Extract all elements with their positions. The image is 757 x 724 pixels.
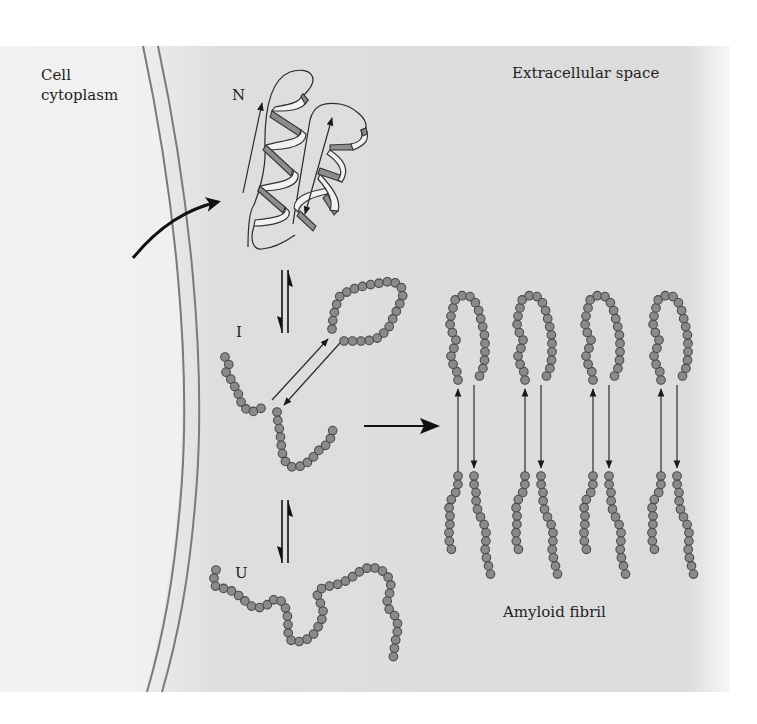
residue-bead xyxy=(549,537,558,546)
residue-bead xyxy=(513,320,522,329)
amyloid-formation-diagram: Cell cytoplasm Extracellular space N I U… xyxy=(0,0,757,724)
residue-bead xyxy=(593,291,602,300)
residue-bead xyxy=(447,352,456,361)
residue-bead xyxy=(547,356,556,365)
residue-bead xyxy=(319,607,328,616)
residue-bead xyxy=(648,503,657,512)
residue-bead xyxy=(683,331,692,340)
residue-bead xyxy=(616,348,625,357)
residue-bead xyxy=(449,304,458,313)
residue-bead xyxy=(580,537,589,546)
residue-bead xyxy=(391,636,400,645)
residue-bead xyxy=(617,554,626,563)
residue-bead xyxy=(650,545,659,554)
residue-bead xyxy=(548,339,557,348)
residue-bead xyxy=(553,570,562,579)
residue-bead xyxy=(582,545,591,554)
residue-bead xyxy=(288,463,297,472)
residue-bead xyxy=(617,537,626,546)
residue-bead xyxy=(317,584,326,593)
residue-bead xyxy=(541,306,550,315)
residue-bead xyxy=(648,537,657,546)
residue-bead xyxy=(390,644,399,653)
residue-bead xyxy=(679,314,688,323)
residue-bead xyxy=(486,570,495,579)
residue-bead xyxy=(513,520,522,529)
residue-bead xyxy=(684,339,693,348)
residue-bead xyxy=(330,308,339,317)
residue-bead xyxy=(212,566,221,575)
residue-bead xyxy=(581,320,590,329)
residue-bead xyxy=(470,472,479,481)
residue-bead xyxy=(358,282,367,291)
residue-bead xyxy=(482,537,491,546)
residue-bead xyxy=(678,372,687,381)
residue-bead xyxy=(675,488,684,497)
residue-bead xyxy=(580,503,589,512)
residue-bead xyxy=(651,328,660,337)
residue-bead xyxy=(515,328,524,337)
residue-bead xyxy=(316,599,325,608)
residue-bead xyxy=(450,344,459,353)
residue-bead xyxy=(210,574,219,583)
residue-bead xyxy=(545,323,554,332)
label-extracellular-space: Extracellular space xyxy=(512,64,659,82)
residue-bead xyxy=(484,562,493,571)
residue-bead xyxy=(514,495,523,504)
residue-bead xyxy=(537,480,546,489)
residue-bead xyxy=(274,416,283,425)
label-state-intermediate: I xyxy=(236,323,242,341)
residue-bead xyxy=(348,337,357,346)
residue-bead xyxy=(385,589,394,598)
residue-bead xyxy=(543,314,552,323)
residue-bead xyxy=(551,562,560,571)
residue-bead xyxy=(454,376,463,385)
residue-bead xyxy=(684,545,693,554)
residue-bead xyxy=(516,360,525,369)
residue-bead xyxy=(389,652,398,661)
residue-bead xyxy=(681,323,690,332)
residue-bead xyxy=(589,376,598,385)
residue-bead xyxy=(480,331,489,340)
residue-bead xyxy=(521,376,530,385)
residue-bead xyxy=(512,528,521,537)
residue-bead xyxy=(542,372,551,381)
residue-bead xyxy=(284,620,293,629)
residue-bead xyxy=(521,480,530,489)
residue-bead xyxy=(211,582,220,591)
residue-bead xyxy=(287,636,296,645)
residue-bead xyxy=(525,291,534,300)
residue-bead xyxy=(481,339,490,348)
residue-bead xyxy=(449,360,458,369)
residue-bead xyxy=(605,472,614,481)
residue-bead xyxy=(447,545,456,554)
residue-bead xyxy=(512,537,521,546)
residue-bead xyxy=(685,529,694,538)
residue-bead xyxy=(295,637,304,646)
residue-bead xyxy=(476,314,485,323)
residue-bead xyxy=(547,331,556,340)
residue-bead xyxy=(685,537,694,546)
residue-bead xyxy=(481,348,490,357)
residue-bead xyxy=(514,312,523,321)
residue-bead xyxy=(447,495,456,504)
residue-bead xyxy=(475,372,484,381)
residue-bead xyxy=(616,545,625,554)
residue-bead xyxy=(446,512,455,521)
residue-bead xyxy=(273,408,282,417)
residue-bead xyxy=(281,604,290,613)
residue-bead xyxy=(580,528,589,537)
residue-bead xyxy=(549,554,558,563)
residue-bead xyxy=(480,356,489,365)
residue-bead xyxy=(446,520,455,529)
residue-bead xyxy=(516,304,525,313)
residue-bead xyxy=(539,497,548,506)
residue-bead xyxy=(652,360,661,369)
label-state-native: N xyxy=(232,86,245,104)
residue-bead xyxy=(397,283,406,292)
residue-bead xyxy=(585,344,594,353)
residue-bead xyxy=(219,584,228,593)
residue-bead xyxy=(521,472,530,481)
residue-bead xyxy=(616,339,625,348)
residue-bead xyxy=(581,520,590,529)
